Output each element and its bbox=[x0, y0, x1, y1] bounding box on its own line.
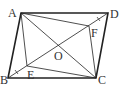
label-o: O bbox=[54, 49, 63, 63]
label-b: B bbox=[0, 73, 8, 87]
label-e: E bbox=[27, 68, 34, 82]
segment-ae bbox=[21, 13, 27, 66]
diagonal-bd bbox=[8, 13, 108, 78]
geometry-diagram: A D B C O E F bbox=[0, 0, 122, 89]
segment-ec bbox=[27, 66, 96, 78]
segment-af bbox=[21, 13, 89, 26]
label-f: F bbox=[91, 26, 98, 40]
tick-mark-df bbox=[97, 17, 100, 21]
label-a: A bbox=[8, 6, 17, 20]
label-c: C bbox=[98, 73, 106, 87]
label-d: D bbox=[110, 7, 119, 21]
